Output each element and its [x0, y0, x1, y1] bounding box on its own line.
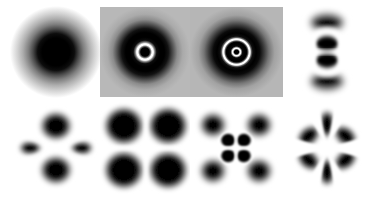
orbital-panel-3p [286, 6, 368, 98]
orbital-plot-3p [286, 6, 368, 98]
density-cloud [190, 7, 283, 97]
orbital-plot-3d-clover [100, 102, 192, 194]
density-cloud [10, 6, 102, 98]
orbital-panel-3d-clover [100, 102, 192, 194]
orbital-plot-4f-flower [286, 102, 368, 194]
orbital-panel-3d-dz2 [10, 104, 102, 192]
orbital-panel-3s [190, 7, 283, 97]
density-cloud [100, 7, 190, 97]
orbital-plot-3s [190, 7, 283, 97]
orbital-panel-4d-clover [190, 102, 282, 194]
orbital-plot-1s [10, 6, 102, 98]
orbital-plot-2s [100, 7, 190, 97]
angular-nodal-plane [311, 50, 344, 53]
orbital-panel-4f-flower [286, 102, 368, 194]
orbital-panel-2s [100, 7, 190, 97]
orbital-plot-3d-dz2 [10, 104, 102, 192]
orbital-density-figure [0, 0, 371, 197]
orbital-panel-1s [10, 6, 102, 98]
orbital-plot-4d-clover [190, 102, 282, 194]
